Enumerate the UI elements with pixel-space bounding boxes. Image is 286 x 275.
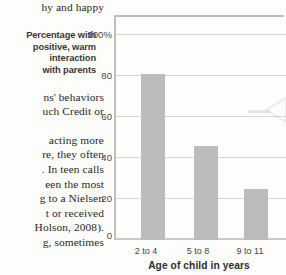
bar-2-to-4[interactable] <box>141 74 165 240</box>
body-text-line: ns' behaviors <box>0 90 104 105</box>
y-axis-caption-line: positive, warm <box>0 42 96 54</box>
y-tick-label-60: 60 <box>101 111 112 122</box>
scanned-page: hy and happy ns' behaviors uch Credit or… <box>0 0 286 275</box>
chart-plot-area: 100% 80 60 40 20 0 <box>114 15 284 240</box>
gridline-100: 100% <box>116 34 286 35</box>
body-text-line: t or received <box>0 206 104 221</box>
text-gap <box>0 81 104 90</box>
body-text-line: Holson, 2008). <box>0 220 104 235</box>
body-text-line: uch Credit or <box>0 104 104 119</box>
x-tick-label-2-to-4: 2 to 4 <box>120 246 172 256</box>
body-text-line: hy and happy <box>0 0 104 15</box>
y-axis-caption-line: with parents <box>0 65 96 77</box>
body-text-line: g, sometimes <box>0 235 104 250</box>
chart-x-axis-title: Age of child in years <box>114 260 284 271</box>
y-tick-label-20: 20 <box>101 193 112 204</box>
x-tick-label-5-to-8: 5 to 8 <box>172 246 224 256</box>
chart-y-axis-caption: Percentage with positive, warm interacti… <box>0 30 96 76</box>
body-text-line: g to a Nielsen <box>0 191 104 206</box>
y-axis-caption-line: Percentage with <box>0 30 96 42</box>
bar-chart: 100% 80 60 40 20 0 2 to 4 5 to 8 <box>96 8 286 275</box>
body-text-line: acting more <box>0 133 104 148</box>
page-edge-smudge <box>248 110 270 113</box>
y-tick-label-40: 40 <box>101 152 112 163</box>
y-axis-caption-line: interaction <box>0 53 96 65</box>
bar-5-to-8[interactable] <box>194 146 218 240</box>
text-gap <box>0 119 104 133</box>
x-tick-label-9-to-11: 9 to 11 <box>222 246 278 256</box>
y-tick-label-80: 80 <box>101 70 112 81</box>
y-tick-label-100: 100% <box>87 29 112 40</box>
bar-9-to-11[interactable] <box>244 189 268 240</box>
body-text-line: re, they often <box>0 147 104 162</box>
y-tick-label-0: 0 <box>107 230 112 241</box>
body-text-line: een the most <box>0 177 104 192</box>
body-text-line: . In teen calls <box>0 162 104 177</box>
